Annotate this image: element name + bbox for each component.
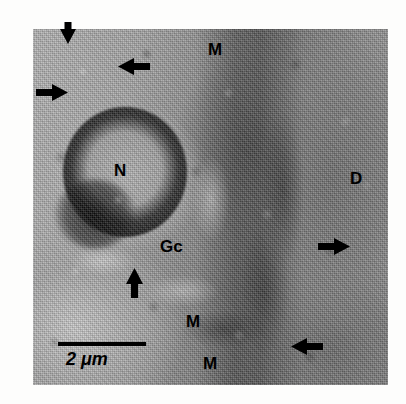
scale-bar-label: 2 μm	[66, 350, 108, 368]
label-m-top: M	[208, 41, 222, 58]
micrograph-figure: MDNGcMM2 μm	[0, 0, 406, 404]
annotation-layer: MDNGcMM2 μm	[0, 0, 406, 404]
arrow-top-down-icon	[60, 22, 76, 44]
arrow-right-mid-icon	[318, 238, 350, 255]
label-d-right: D	[350, 170, 362, 187]
arrow-bottom-right-icon	[291, 338, 323, 355]
scale-bar	[58, 342, 146, 346]
arrow-left-edge-right-icon	[36, 84, 68, 101]
arrow-upper-left-icon	[118, 58, 150, 75]
label-n-nucleus: N	[114, 162, 126, 179]
label-gc-golgi: Gc	[160, 238, 183, 255]
label-m-lower: M	[186, 313, 200, 330]
arrow-center-up-icon	[126, 268, 143, 298]
label-m-bottom: M	[203, 355, 217, 372]
